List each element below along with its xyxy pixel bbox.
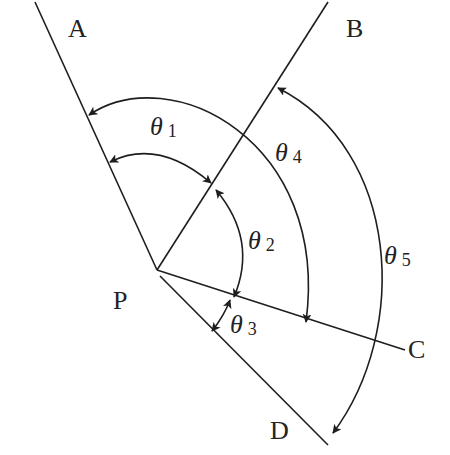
label-theta4: θ4	[275, 140, 302, 166]
theta-index: 3	[248, 319, 257, 339]
theta-index: 2	[266, 235, 275, 255]
theta-index: 5	[402, 250, 411, 270]
theta-symbol: θ	[384, 241, 397, 270]
theta-symbol: θ	[230, 310, 243, 339]
label-B: B	[346, 16, 363, 42]
ray-PA	[35, 2, 157, 270]
theta-symbol: θ	[275, 138, 288, 167]
theta-symbol: θ	[248, 226, 261, 255]
arc-theta3	[212, 300, 230, 331]
theta-index: 1	[168, 121, 177, 141]
label-theta5: θ5	[384, 243, 411, 269]
label-theta1: θ1	[150, 114, 177, 140]
label-C: C	[408, 337, 425, 363]
ray-PD	[160, 276, 328, 445]
label-theta2: θ2	[248, 228, 275, 254]
label-theta3: θ3	[230, 312, 257, 338]
label-A: A	[68, 16, 87, 42]
label-D: D	[270, 418, 289, 444]
theta-index: 4	[293, 147, 302, 167]
arc-theta1	[110, 154, 211, 183]
diagram-canvas	[0, 0, 450, 455]
theta-symbol: θ	[150, 112, 163, 141]
label-P: P	[113, 288, 127, 314]
angle-diagram: A B C D P θ1 θ2 θ3 θ4 θ5	[0, 0, 450, 455]
arc-theta2	[216, 190, 243, 297]
